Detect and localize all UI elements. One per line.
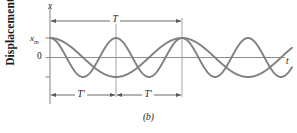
period-T-prime-right-label: T′: [142, 89, 154, 99]
y-tick-label-amplitude: xm: [30, 33, 39, 45]
amplitude-subscript: m: [34, 38, 39, 45]
simple-harmonic-motion-figure: Displacement x t xm 0: [0, 0, 297, 133]
x-axis-symbol-label: t: [286, 56, 289, 66]
y-tick-label-zero: 0: [37, 51, 42, 61]
period-T-label: T: [110, 14, 120, 24]
figure-caption: (b): [0, 112, 297, 122]
y-axis-symbol-label: x: [48, 1, 52, 11]
period-T-prime-left-label: T′: [75, 89, 87, 99]
